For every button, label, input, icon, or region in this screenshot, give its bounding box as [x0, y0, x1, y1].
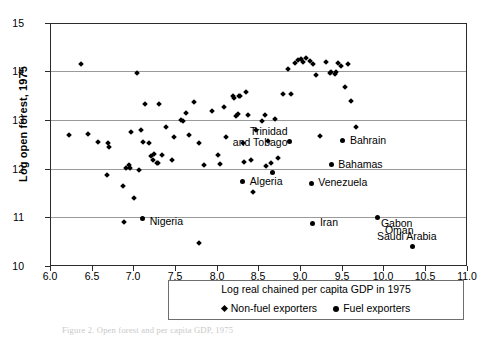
- data-point-non-fuel-exporter: [242, 159, 248, 165]
- y-tick-10: 10: [0, 261, 24, 271]
- data-point-non-fuel-exporter: [248, 157, 254, 163]
- data-point-non-fuel-exporter: [169, 157, 175, 163]
- x-tick-6-0: 6.0: [30, 271, 70, 282]
- data-point-non-fuel-exporter: [180, 118, 186, 124]
- x-tickmark-7-0: [133, 266, 134, 271]
- data-point-non-fuel-exporter: [107, 145, 113, 151]
- x-tickmark-6-5: [92, 266, 93, 271]
- x-axis-label: Log real chained per capita GDP in 1975: [169, 283, 463, 296]
- x-tickmark-9-5: [342, 266, 343, 271]
- legend-box: Log real chained per capita GDP in 1975 …: [168, 280, 464, 320]
- data-point-non-fuel-exporter: [159, 152, 165, 158]
- legend-label-fuel: Fuel exporters: [343, 302, 410, 315]
- data-point-fuel-exporter: [329, 162, 334, 167]
- data-point-non-fuel-exporter: [217, 161, 223, 167]
- data-point-non-fuel-exporter: [215, 152, 221, 158]
- data-point-non-fuel-exporter: [128, 130, 134, 136]
- annotation-bahamas: Bahamas: [338, 159, 382, 171]
- data-point-non-fuel-exporter: [183, 111, 189, 117]
- data-point-non-fuel-exporter: [197, 240, 203, 246]
- data-point-non-fuel-exporter: [187, 132, 193, 138]
- data-point-non-fuel-exporter: [348, 98, 354, 104]
- legend-label-non-fuel: Non-fuel exporters: [231, 302, 317, 315]
- gridline-12: [51, 169, 466, 170]
- data-point-non-fuel-exporter: [222, 104, 228, 110]
- data-point-fuel-exporter: [310, 221, 315, 226]
- data-point-non-fuel-exporter: [155, 160, 161, 166]
- data-point-non-fuel-exporter: [142, 101, 148, 107]
- annotation-saudi-arabia: Saudi Arabia: [377, 231, 437, 243]
- annotation-venezuela: Venezuela: [318, 177, 367, 189]
- diamond-marker-icon: [221, 305, 228, 312]
- annotation-nigeria: Nigeria: [150, 216, 183, 228]
- data-point-non-fuel-exporter: [132, 195, 138, 201]
- figure-open-forest-gdp: Log open forest, 1975 15 14 13 12 11 10 …: [0, 0, 495, 338]
- data-point-fuel-exporter: [240, 179, 245, 184]
- data-point-non-fuel-exporter: [313, 72, 319, 78]
- data-point-fuel-exporter: [375, 215, 380, 220]
- legend-item-fuel: Fuel exporters: [333, 302, 410, 315]
- y-tick-12: 12: [0, 164, 24, 174]
- data-point-non-fuel-exporter: [197, 140, 203, 146]
- legend-item-non-fuel: Non-fuel exporters: [222, 302, 317, 315]
- data-point-non-fuel-exporter: [104, 172, 110, 178]
- data-point-non-fuel-exporter: [134, 70, 140, 76]
- x-tickmark-10-5: [425, 266, 426, 271]
- data-point-non-fuel-exporter: [85, 131, 91, 137]
- data-point-fuel-exporter: [270, 170, 275, 175]
- y-tick-15: 15: [0, 18, 24, 28]
- legend-entries: Non-fuel exporters Fuel exporters: [169, 302, 463, 315]
- data-point-non-fuel-exporter: [172, 134, 178, 140]
- data-point-non-fuel-exporter: [136, 167, 142, 173]
- data-point-non-fuel-exporter: [192, 99, 198, 105]
- x-tickmark-7-5: [175, 266, 176, 271]
- data-point-non-fuel-exporter: [250, 189, 256, 195]
- y-tick-13: 13: [0, 115, 24, 125]
- data-point-non-fuel-exporter: [317, 133, 323, 139]
- data-point-non-fuel-exporter: [275, 155, 281, 161]
- y-tick-14: 14: [0, 66, 24, 76]
- data-point-non-fuel-exporter: [140, 139, 146, 145]
- plot-area: Trinidadand TobagoBahrainBahamasAlgeriaV…: [50, 23, 467, 266]
- x-tickmark-11-0: [467, 266, 468, 271]
- data-point-fuel-exporter: [309, 181, 314, 186]
- data-point-non-fuel-exporter: [122, 219, 128, 225]
- gridline-14: [51, 71, 466, 72]
- data-point-non-fuel-exporter: [78, 61, 84, 67]
- figure-caption: Figure 2. Open forest and per capita GDP…: [62, 325, 233, 335]
- data-point-non-fuel-exporter: [67, 132, 73, 138]
- annotation-iran: Iran: [320, 217, 338, 229]
- data-point-non-fuel-exporter: [120, 183, 126, 189]
- x-tickmark-9-0: [300, 266, 301, 271]
- data-point-non-fuel-exporter: [209, 108, 215, 114]
- x-tickmark-8-5: [258, 266, 259, 271]
- data-point-non-fuel-exporter: [157, 101, 163, 107]
- x-tick-6-5: 6.5: [72, 271, 112, 282]
- data-point-non-fuel-exporter: [280, 91, 286, 97]
- y-tick-11: 11: [0, 212, 24, 222]
- circle-marker-icon: [333, 306, 339, 312]
- data-point-non-fuel-exporter: [310, 61, 316, 67]
- data-point-non-fuel-exporter: [288, 92, 294, 98]
- data-point-non-fuel-exporter: [202, 162, 208, 168]
- data-point-non-fuel-exporter: [138, 127, 144, 133]
- data-point-fuel-exporter: [340, 138, 345, 143]
- x-tick-7-0: 7.0: [113, 271, 153, 282]
- data-point-non-fuel-exporter: [163, 124, 169, 130]
- x-tickmark-8-0: [217, 266, 218, 271]
- data-point-fuel-exporter: [410, 244, 415, 249]
- annotation-bahrain: Bahrain: [350, 135, 386, 147]
- data-point-fuel-exporter: [140, 216, 145, 221]
- data-point-non-fuel-exporter: [342, 84, 348, 90]
- data-point-non-fuel-exporter: [243, 89, 249, 95]
- data-point-non-fuel-exporter: [259, 118, 265, 124]
- x-tickmark-10-0: [383, 266, 384, 271]
- data-point-non-fuel-exporter: [345, 61, 351, 67]
- data-point-non-fuel-exporter: [338, 63, 344, 69]
- x-tickmark-6-0: [50, 266, 51, 271]
- annotation-algeria: Algeria: [250, 176, 283, 188]
- annotation-trinidad-and-tobago: Trinidadand Tobago: [228, 126, 288, 149]
- data-point-non-fuel-exporter: [353, 124, 359, 130]
- data-point-non-fuel-exporter: [152, 151, 158, 157]
- data-point-non-fuel-exporter: [262, 113, 268, 119]
